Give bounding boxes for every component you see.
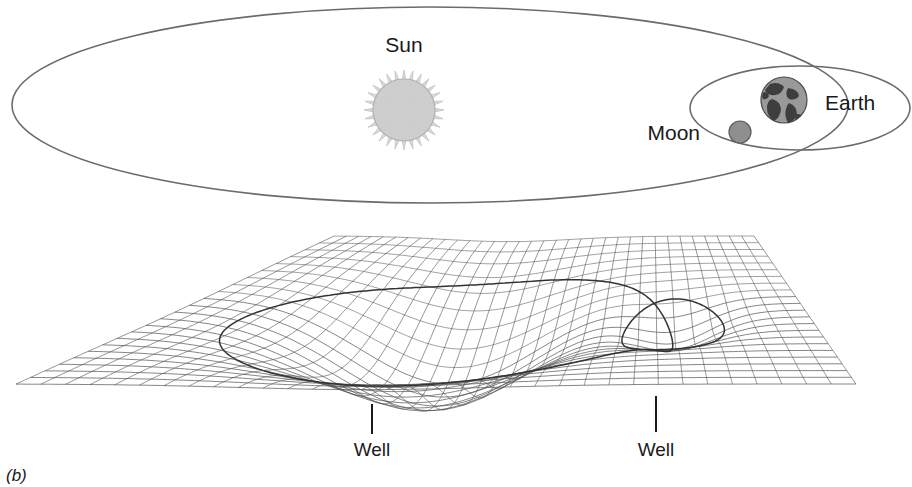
sun-well-label: Well [354,439,391,460]
sun-texture [373,79,435,141]
spacetime-gravity-well-figure: Sun Moon Earth Well Wel [0,0,912,487]
earth-body [761,77,807,123]
moon-label: Moon [647,121,700,144]
sun-label: Sun [385,33,422,56]
moon-disc [729,121,751,143]
figure-caption: (b) [6,466,27,485]
earth-texture [761,77,807,123]
figure-background [0,0,912,487]
earth-well-label: Well [638,439,675,460]
earth-label: Earth [825,91,875,114]
